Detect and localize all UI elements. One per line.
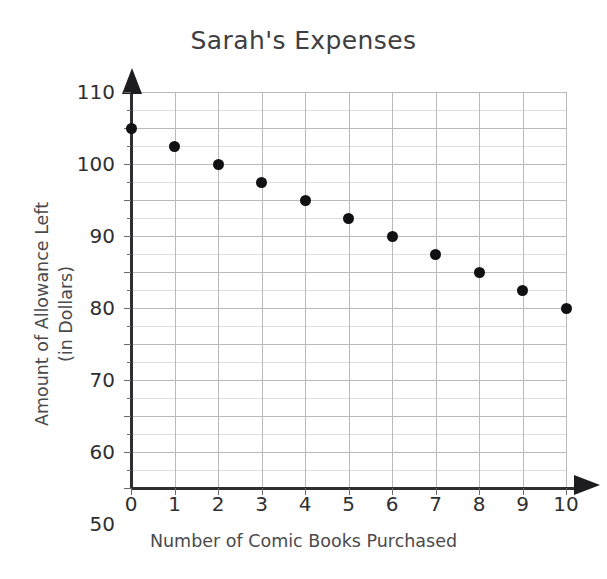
- x-axis-tick-label: 8: [473, 492, 486, 516]
- scatter-chart-figure: Sarah's Expenses Amount of Allowance Lef…: [0, 0, 607, 579]
- gridline-major: [392, 92, 393, 488]
- data-point: [430, 249, 441, 260]
- x-axis-line: [131, 487, 580, 490]
- data-point: [561, 303, 572, 314]
- y-axis-title: Amount of Allowance Left(in Dollars): [30, 164, 78, 464]
- y-axis-tick-minor: [127, 398, 131, 399]
- plot-area: 0102030405060708090100110 012345678910: [131, 92, 566, 488]
- x-axis-tick-label: 9: [516, 492, 529, 516]
- y-axis-tick: 110: [124, 92, 131, 93]
- data-point: [169, 141, 180, 152]
- y-axis-tick: 90: [124, 164, 131, 165]
- y-axis-tick-label: 80: [90, 296, 115, 320]
- y-axis-tick-minor: [127, 326, 131, 327]
- x-axis-tick-label: 6: [386, 492, 399, 516]
- y-axis-tick-minor: [127, 218, 131, 219]
- y-axis-line: [130, 82, 133, 488]
- gridline-major: [218, 92, 219, 488]
- y-axis-title-line2: (in Dollars): [56, 266, 76, 362]
- x-axis-tick-label: 4: [299, 492, 312, 516]
- x-axis-tick-label: 10: [553, 492, 578, 516]
- y-axis-tick: 60: [124, 272, 131, 273]
- data-point: [300, 195, 311, 206]
- gridline-major: [479, 92, 480, 488]
- gridline-major: [566, 92, 567, 488]
- data-point: [343, 213, 354, 224]
- y-axis-tick-minor: [127, 434, 131, 435]
- data-point: [387, 231, 398, 242]
- x-axis-tick-label: 7: [429, 492, 442, 516]
- x-axis-tick-label: 5: [342, 492, 355, 516]
- y-axis-tick-label: 110: [77, 80, 115, 104]
- y-axis-tick-minor: [127, 182, 131, 183]
- gridline-major: [349, 92, 350, 488]
- y-axis-arrow-icon: [122, 68, 142, 94]
- data-point: [256, 177, 267, 188]
- x-axis-title: Number of Comic Books Purchased: [0, 531, 607, 551]
- data-point: [126, 123, 137, 134]
- data-point: [474, 267, 485, 278]
- y-axis-tick-label: 90: [90, 224, 115, 248]
- y-axis-tick: 10: [124, 452, 131, 453]
- chart-title: Sarah's Expenses: [0, 26, 607, 55]
- y-axis-tick-minor: [127, 146, 131, 147]
- y-axis-tick: 30: [124, 380, 131, 381]
- y-axis-title-line1: Amount of Allowance Left: [32, 202, 52, 426]
- gridline-major: [262, 92, 263, 488]
- y-axis-tick: 0: [124, 488, 131, 489]
- y-axis-tick: 20: [124, 416, 131, 417]
- y-axis-tick-minor: [127, 110, 131, 111]
- y-axis-tick-label: 60: [90, 440, 115, 464]
- y-axis-tick: 80: [124, 200, 131, 201]
- x-axis-tick-label: 3: [255, 492, 268, 516]
- y-axis-tick-minor: [127, 290, 131, 291]
- y-axis-tick-minor: [127, 470, 131, 471]
- y-axis-tick: 50: [124, 308, 131, 309]
- x-axis-tick-label: 2: [212, 492, 225, 516]
- y-axis-tick-label: 70: [90, 368, 115, 392]
- y-axis-tick-minor: [127, 254, 131, 255]
- gridline-major: [436, 92, 437, 488]
- y-axis-tick: 70: [124, 236, 131, 237]
- x-axis-tick-label: 0: [125, 492, 138, 516]
- y-axis-tick-minor: [127, 362, 131, 363]
- data-point: [213, 159, 224, 170]
- y-axis-tick: 40: [124, 344, 131, 345]
- y-axis-tick-label: 100: [77, 152, 115, 176]
- x-axis-tick-label: 1: [168, 492, 181, 516]
- gridline-major: [305, 92, 306, 488]
- data-point: [517, 285, 528, 296]
